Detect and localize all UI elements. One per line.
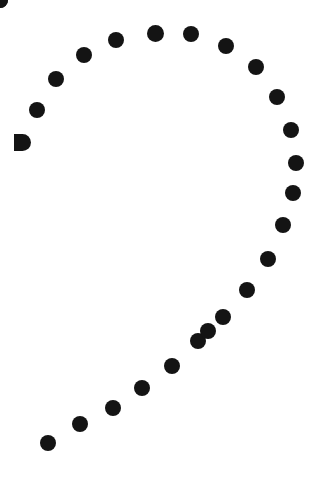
pattern-dot [134, 380, 150, 396]
dot-pattern-canvas [0, 0, 327, 499]
pattern-dot [215, 309, 231, 325]
pattern-dot [218, 38, 234, 54]
pattern-dot [288, 155, 304, 171]
pattern-dot [183, 26, 199, 42]
pattern-dot [14, 134, 31, 151]
pattern-dot [105, 400, 121, 416]
pattern-dot [40, 435, 56, 451]
pattern-dot [29, 102, 45, 118]
pattern-dot [239, 282, 255, 298]
pattern-dot [248, 59, 264, 75]
pattern-dot [285, 185, 301, 201]
pattern-dot [48, 71, 64, 87]
pattern-dot [283, 122, 299, 138]
pattern-dot [147, 25, 164, 42]
pattern-dot [76, 47, 92, 63]
pattern-dot [260, 251, 276, 267]
pattern-dot [200, 323, 216, 339]
pattern-dot [164, 358, 180, 374]
pattern-dot [275, 217, 291, 233]
pattern-dot [72, 416, 88, 432]
pattern-dot [0, 0, 8, 8]
pattern-dot [269, 89, 285, 105]
pattern-dot [108, 32, 124, 48]
